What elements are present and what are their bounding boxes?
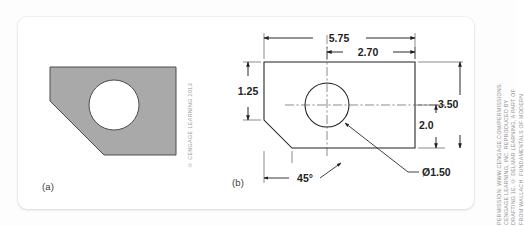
dimension-label-hole-diameter: Ø1.50: [422, 166, 451, 178]
dimension-hole-x: 2.70: [327, 46, 415, 58]
extension-lines: [243, 33, 463, 183]
panel-a: (a) © CENGAGE LEARNING 2013: [18, 17, 223, 209]
dimension-left-face: 1.25: [238, 62, 259, 120]
dimension-hole-y: 3.50: [438, 62, 460, 148]
panel-a-credit-text: © CENGAGE LEARNING 2013: [188, 83, 194, 168]
attribution-line-4: PERMISSION. WWW.CENGAGE.COM/PERMISSIONS.: [496, 39, 502, 225]
dimension-label-right-height: 2.0: [419, 119, 434, 131]
panel-b-drawing: 5.75 2.70 1.25 3.50: [223, 17, 474, 209]
source-attribution-block: FROM WALLACH. FUNDAMENTALS OF MODERN DRA…: [496, 39, 524, 225]
attribution-line-3: CENGAGE LEARNING, INC. REPRODUCED BY: [503, 39, 509, 225]
panel-b: 5.75 2.70 1.25 3.50: [223, 17, 474, 209]
dimension-overall-width: 5.75: [264, 32, 415, 44]
dimension-label-hole-x: 2.70: [358, 46, 379, 58]
hole-circle-shaded: [89, 80, 139, 130]
dimension-label-overall-width: 5.75: [329, 32, 350, 44]
panel-a-caption: (a): [42, 181, 54, 192]
figure-card: (a) © CENGAGE LEARNING 2013: [18, 17, 474, 209]
panel-b-caption: (b): [232, 177, 244, 188]
dimension-hole-diameter: Ø1.50: [345, 123, 451, 178]
dimension-label-left-face: 1.25: [238, 85, 259, 97]
attribution-line-1: FROM WALLACH. FUNDAMENTALS OF MODERN: [518, 39, 524, 225]
dimension-label-chamfer-angle: 45°: [297, 172, 313, 184]
attribution-line-2: DRAFTING 1E. © DELMAR LEARNING, A PART O…: [510, 39, 516, 225]
dimension-right-height: 2.0: [419, 105, 436, 148]
dimension-label-hole-y: 3.50: [438, 98, 459, 110]
dimension-chamfer-angle: 45°: [264, 163, 341, 184]
